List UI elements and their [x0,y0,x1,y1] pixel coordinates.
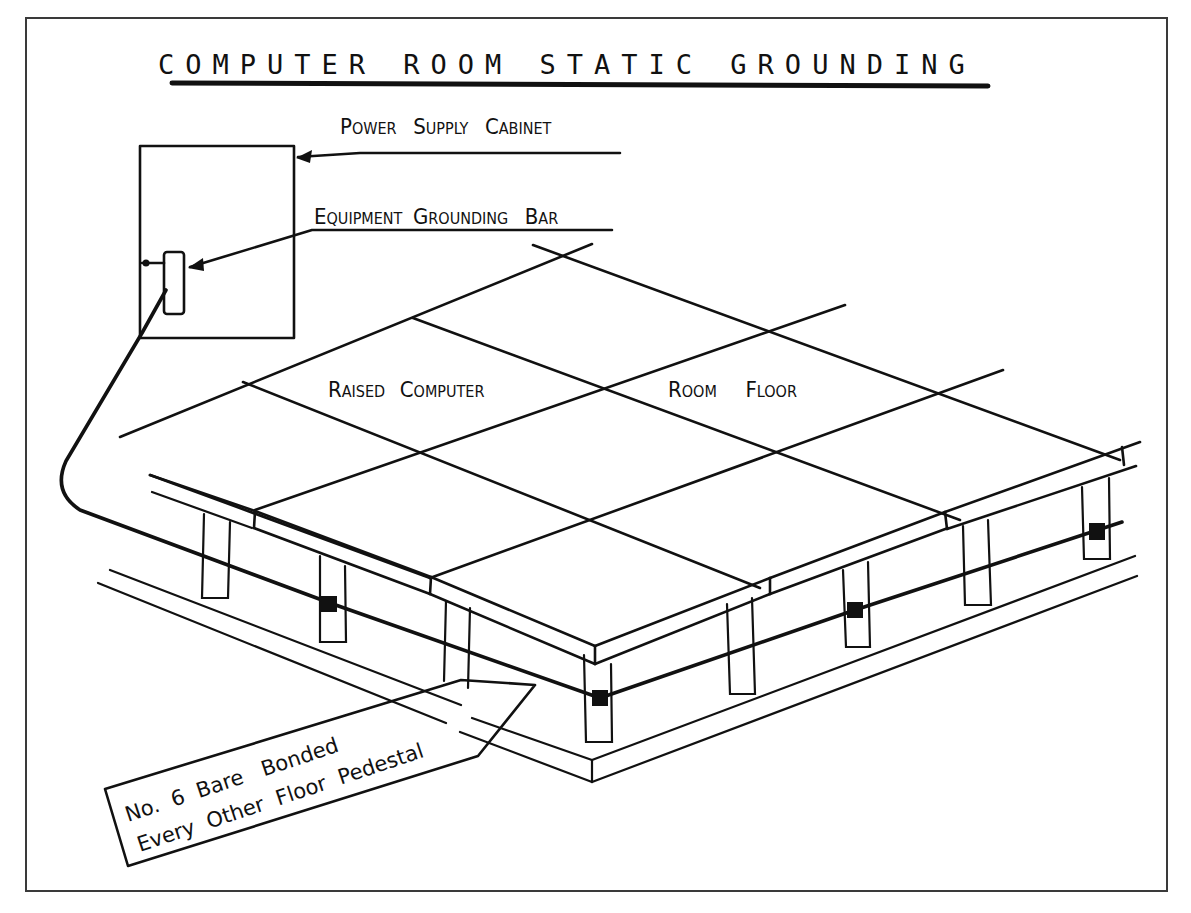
floor-labels: RAISED COMPUTER ROOM FLOOR [328,377,797,402]
bar-arrow-head [188,258,204,271]
equipment-grounding-bar [164,252,184,314]
grounding-diagram: COMPUTER ROOM STATIC GROUNDING POWER SUP… [0,0,1191,913]
raised-floor-grid [120,244,1120,588]
grid-line [120,244,592,437]
pedestals [202,478,1110,742]
title-group: COMPUTER ROOM STATIC GROUNDING [158,49,988,86]
floor-pedestal [1082,478,1110,559]
floor-label-raised-computer: RAISED COMPUTER [328,377,484,402]
grid-line [413,318,960,520]
no-6-bare-wire [61,290,1122,698]
floor-front-left-edge [150,475,595,664]
grid-line [533,245,1120,460]
grid-line [430,370,1003,578]
floor-pedestal [963,520,991,605]
floor-pedestal [468,608,470,688]
grid-line [255,305,845,510]
subfloor-base [98,556,1137,782]
bond-clamp [1089,523,1105,540]
floor-pedestal [444,601,446,681]
label-power-supply-cabinet: POWER SUPPLY CABINET [296,114,620,163]
bond-clamp [321,596,337,612]
floor-front-right-edge [595,442,1140,664]
equipment-grounding-bar-label: EQUIPMENT GROUNDING BAR [314,204,558,229]
bond-clamp [847,602,863,618]
power-supply-cabinet-label: POWER SUPPLY CABINET [340,114,552,139]
bond-clamp [592,690,608,706]
diagram-title: COMPUTER ROOM STATIC GROUNDING [158,49,976,80]
wire-callout: No. 6 Bare Bonded Every Other Floor Pede… [105,680,535,866]
title-underline [172,83,988,86]
cabinet-leader-line [298,153,620,157]
bar-connector-dot [143,260,150,267]
floor-label-room-floor: ROOM FLOOR [668,377,797,402]
